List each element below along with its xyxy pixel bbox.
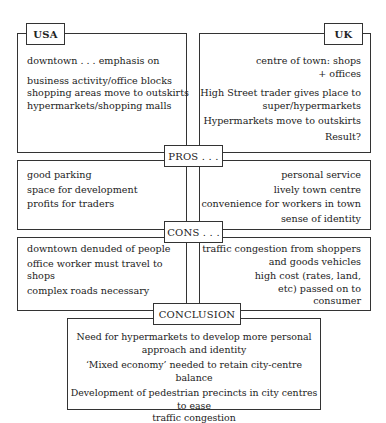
cons-usa-text: downtown denuded of people office worker… bbox=[27, 243, 170, 297]
usa-line: downtown . . . emphasis on bbox=[27, 55, 189, 68]
uk-line: centre of town: shops bbox=[200, 55, 361, 68]
usa-line: hypermarkets/shopping malls bbox=[27, 100, 189, 113]
conclusion-line: ‘Mixed economy’ needed to retain city-ce… bbox=[67, 359, 321, 384]
cons-uk-line: and goods vehicles bbox=[202, 256, 361, 269]
uk-line: High Street trader gives place to bbox=[200, 87, 361, 100]
cons-label: CONS . . . bbox=[164, 221, 223, 243]
cons-uk-line: traffic congestion from shoppers bbox=[202, 243, 361, 256]
cons-usa-line: downtown denuded of people bbox=[27, 243, 170, 256]
pros-usa-line: profits for traders bbox=[27, 198, 138, 211]
uk-line: Hypermarkets move to outskirts bbox=[200, 115, 361, 128]
pros-usa-line: space for development bbox=[27, 184, 138, 197]
uk-line: + offices bbox=[200, 68, 361, 81]
cons-usa-line: complex roads necessary bbox=[27, 285, 170, 298]
pros-uk-line: convenience for workers in town bbox=[201, 198, 361, 211]
uk-label: UK bbox=[324, 23, 363, 45]
pros-uk-text: personal service lively town centre conv… bbox=[201, 169, 361, 225]
pros-uk-line: sense of identity bbox=[201, 213, 361, 226]
pros-uk-line: personal service bbox=[201, 169, 361, 182]
cons-uk-line: high cost (rates, land, bbox=[202, 270, 361, 283]
conclusion-line: Need for hypermarkets to develop more pe… bbox=[67, 331, 321, 344]
usa-line: business activity/office blocks bbox=[27, 75, 189, 88]
usa-label: USA bbox=[26, 23, 65, 45]
pros-usa-text: good parking space for development profi… bbox=[27, 169, 138, 211]
cons-usa-line: shops bbox=[27, 270, 170, 283]
usa-line: shopping areas move to outskirts bbox=[27, 87, 189, 100]
cons-uk-text: traffic congestion from shoppers and goo… bbox=[202, 243, 361, 308]
conclusion-line: Development of pedestrian precincts in c… bbox=[67, 387, 321, 412]
conclusion-line: traffic congestion bbox=[67, 412, 321, 423]
cons-usa-line: office worker must travel to bbox=[27, 258, 170, 271]
pros-label: PROS . . . bbox=[164, 145, 223, 167]
uk-text: centre of town: shops + offices High Str… bbox=[200, 55, 361, 143]
conclusion-label: CONCLUSION bbox=[153, 303, 241, 325]
pros-usa-line: good parking bbox=[27, 169, 138, 182]
usa-text: downtown . . . emphasis on business acti… bbox=[27, 55, 189, 112]
pros-uk-line: lively town centre bbox=[201, 184, 361, 197]
conclusion-text: Need for hypermarkets to develop more pe… bbox=[67, 331, 321, 423]
conclusion-line: approach and identity bbox=[67, 344, 321, 357]
uk-line: Result? bbox=[200, 131, 361, 144]
cons-uk-line: etc) passed on to bbox=[202, 283, 361, 296]
uk-line: super/hypermarkets bbox=[200, 100, 361, 113]
